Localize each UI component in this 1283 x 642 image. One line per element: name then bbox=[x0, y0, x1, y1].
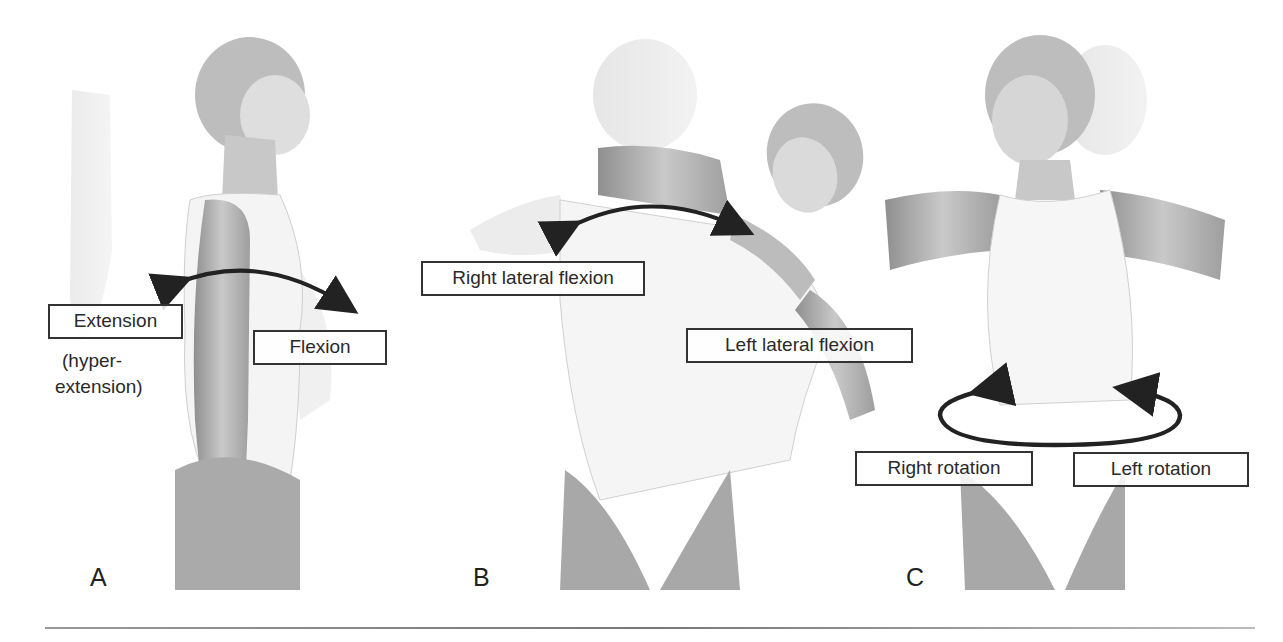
panel-letter-a: A bbox=[90, 563, 107, 592]
hyperextension-label-line2: extension) bbox=[55, 374, 143, 400]
range-of-motion-figure: Extension (hyper- extension) Flexion A R… bbox=[0, 0, 1283, 642]
panel-letter-b: B bbox=[473, 563, 490, 592]
illustration-art bbox=[0, 0, 1283, 642]
right-lateral-flexion-label: Right lateral flexion bbox=[421, 261, 645, 296]
extension-label: Extension bbox=[48, 304, 183, 339]
left-lateral-flexion-label: Left lateral flexion bbox=[686, 328, 913, 363]
right-rotation-label: Right rotation bbox=[855, 451, 1033, 486]
flexion-label: Flexion bbox=[253, 330, 387, 365]
hyperextension-label-line1: (hyper- bbox=[62, 348, 122, 374]
left-rotation-label: Left rotation bbox=[1073, 452, 1249, 487]
panel-b-figure bbox=[470, 39, 875, 590]
bottom-divider bbox=[45, 627, 1255, 629]
panel-c-figure bbox=[885, 35, 1225, 590]
panel-letter-c: C bbox=[906, 563, 924, 592]
